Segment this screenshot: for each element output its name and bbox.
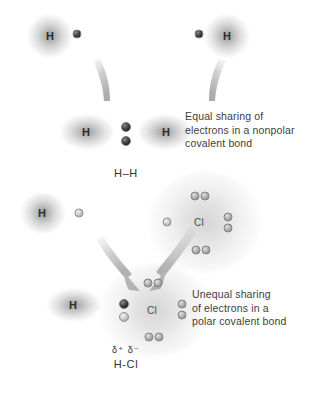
electron-chlorine-unpaired-reactant (163, 218, 172, 227)
lone-pair-electron-top-b-reactant (201, 192, 210, 201)
atom-label-hydrogen-lower-left: H (38, 207, 46, 219)
atom-label-hydrogen-top-left: H (46, 30, 54, 42)
atom-label-hydrogen-bond-right: H (162, 126, 170, 138)
lone-pair-electron-bottom-a-hcl (145, 333, 154, 342)
lone-pair-electron-bottom-a-reactant (192, 246, 201, 255)
lone-pair-electron-bottom-b-hcl (155, 333, 164, 342)
caption-polar: Unequal sharing of electrons in a polar … (192, 288, 323, 329)
electron-top-right (195, 30, 204, 39)
electron-top-left (73, 30, 82, 39)
atom-label-chlorine-hcl: Cl (147, 305, 157, 316)
formula-hydrogen-chloride: H-Cl (114, 358, 138, 370)
lone-pair-electron-top-b-hcl (154, 279, 163, 288)
atom-label-hydrogen-bond-left: H (82, 126, 90, 138)
lone-pair-electron-right-b-hcl (178, 311, 187, 320)
shared-electron-bottom-nonpolar (121, 136, 131, 146)
lone-pair-electron-right-b-reactant (224, 224, 233, 233)
caption-nonpolar: Equal sharing of electrons in a nonpolar… (185, 110, 323, 151)
lone-pair-electron-right-a-hcl (178, 300, 187, 309)
lone-pair-electron-right-a-reactant (224, 213, 233, 222)
formula-hydrogen-molecule: H–H (114, 167, 138, 179)
atom-label-hydrogen-hcl: H (69, 299, 77, 311)
lone-pair-electron-bottom-b-reactant (202, 246, 211, 255)
atom-label-hydrogen-top-right: H (223, 30, 231, 42)
lone-pair-electron-top-a-hcl (144, 279, 153, 288)
partial-charge-labels: δ⁺ δ⁻ (112, 345, 140, 355)
shared-electron-top-polar (119, 299, 129, 309)
figure-canvas: H H (0, 0, 323, 393)
atom-label-chlorine-reactant: Cl (194, 217, 204, 228)
electron-hydrogen-lower-left (75, 209, 84, 218)
shared-electron-top-nonpolar (121, 122, 131, 132)
shared-electron-bottom-polar (119, 312, 129, 322)
lone-pair-electron-top-a-reactant (191, 192, 200, 201)
